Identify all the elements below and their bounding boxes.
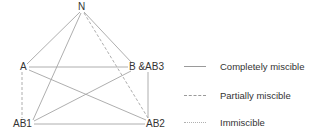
legend-label: Completely miscible	[220, 61, 304, 72]
edge-N-A	[27, 12, 80, 64]
solid-line-icon	[184, 66, 206, 67]
edge-A-AB2	[29, 70, 146, 120]
node-B-AB3: B &AB3	[129, 62, 164, 72]
legend-label: Immiscible	[220, 117, 265, 128]
node-N: N	[78, 2, 85, 12]
edge-N-B	[84, 12, 132, 63]
legend-label: Partially miscible	[220, 90, 291, 101]
dotted-line-icon	[184, 122, 206, 123]
legend-immiscible: Immiscible	[184, 117, 265, 128]
dashed-line-icon	[184, 95, 206, 96]
legend-partially-miscible: Partially miscible	[184, 90, 291, 101]
node-AB2: AB2	[146, 119, 165, 129]
legend-completely-miscible: Completely miscible	[184, 61, 304, 72]
edge-N-AB1	[33, 13, 81, 120]
node-A: A	[20, 62, 27, 72]
node-AB1: AB1	[13, 119, 32, 129]
